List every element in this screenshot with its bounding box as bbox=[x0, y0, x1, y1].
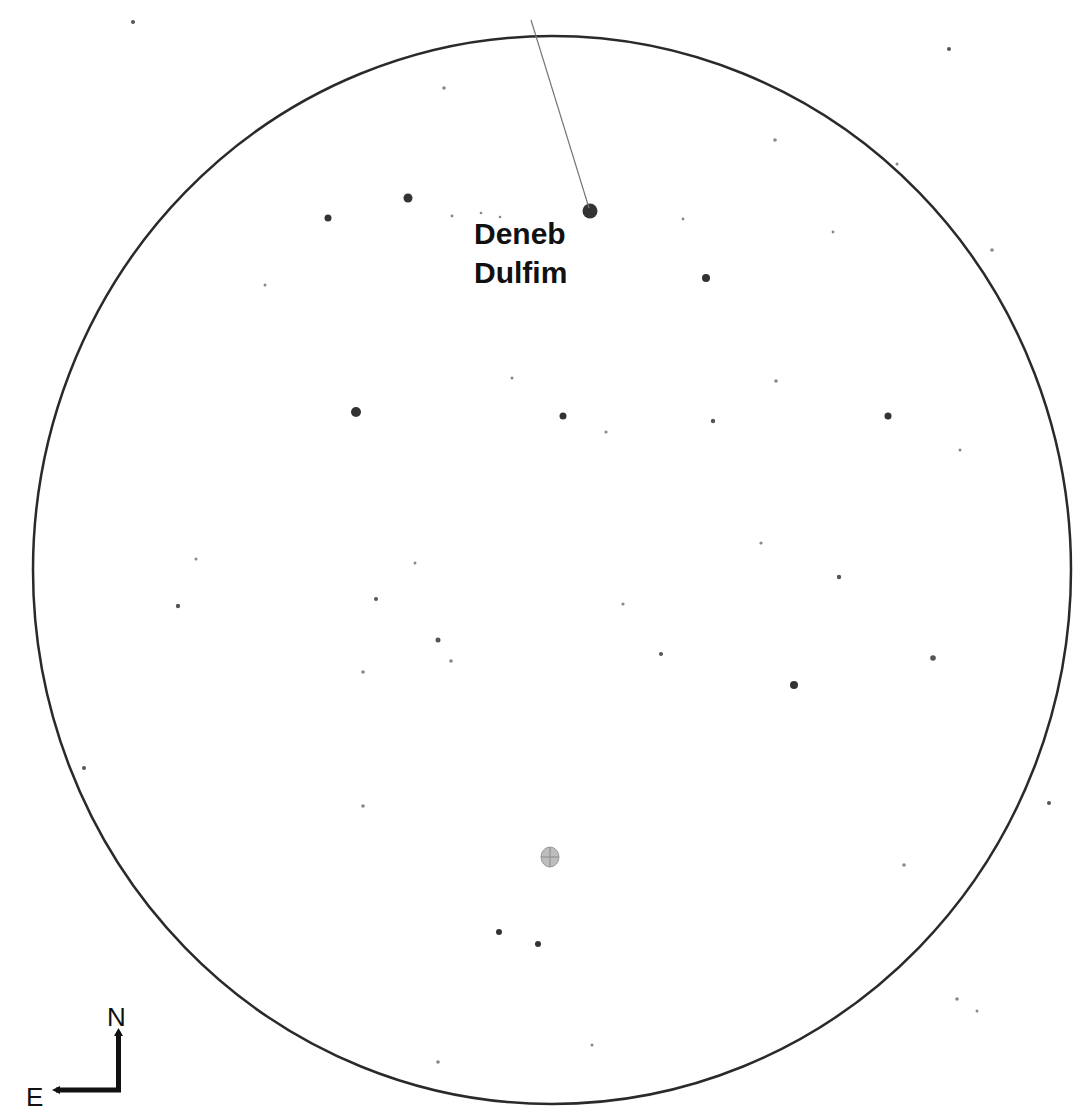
star-icon bbox=[195, 558, 198, 561]
star-icon bbox=[404, 194, 413, 203]
star-icon bbox=[702, 274, 710, 282]
compass-east-label: E bbox=[26, 1082, 43, 1112]
star-icon bbox=[990, 248, 994, 252]
star-icon bbox=[711, 419, 715, 423]
star-icon bbox=[264, 284, 267, 287]
field-of-view-circle bbox=[33, 36, 1071, 1104]
star-icon bbox=[896, 163, 899, 166]
star-icon bbox=[131, 20, 135, 24]
star-icon bbox=[955, 997, 959, 1001]
finder-chart: Deneb Dulfim N E bbox=[0, 0, 1084, 1120]
star-icon bbox=[774, 379, 778, 383]
star-icon bbox=[82, 766, 86, 770]
star-icon bbox=[414, 562, 417, 565]
star-icon bbox=[947, 47, 951, 51]
star-icon bbox=[591, 1044, 594, 1047]
star-icon bbox=[436, 638, 441, 643]
star-icon bbox=[773, 138, 777, 142]
star-icon bbox=[451, 215, 454, 218]
star-icon bbox=[361, 804, 365, 808]
star-icon bbox=[583, 204, 598, 219]
star-icon bbox=[959, 449, 962, 452]
star-icon bbox=[621, 602, 624, 605]
star-icon bbox=[759, 541, 762, 544]
star-icon bbox=[832, 231, 835, 234]
star-icon bbox=[659, 652, 663, 656]
star-field bbox=[82, 20, 1051, 1064]
star-icon bbox=[442, 86, 446, 90]
target-name-line2: Dulfim bbox=[474, 256, 567, 289]
star-icon bbox=[560, 413, 567, 420]
star-icon bbox=[176, 604, 180, 608]
star-icon bbox=[361, 670, 365, 674]
star-icon bbox=[976, 1010, 979, 1013]
field-of-view-ring bbox=[33, 36, 1071, 1104]
star-icon bbox=[682, 218, 685, 221]
star-icon bbox=[436, 1060, 440, 1064]
star-icon bbox=[325, 215, 332, 222]
star-icon bbox=[604, 430, 607, 433]
pointer-line bbox=[531, 20, 589, 208]
star-icon bbox=[449, 659, 453, 663]
dso-marker-icon bbox=[541, 847, 559, 867]
star-icon bbox=[885, 413, 892, 420]
star-icon bbox=[902, 863, 906, 867]
compass-rose: N E bbox=[26, 1002, 126, 1112]
compass-north-label: N bbox=[107, 1002, 126, 1032]
target-name-line1: Deneb bbox=[474, 217, 566, 250]
compass-east-arrowhead-icon bbox=[52, 1086, 60, 1094]
star-icon bbox=[374, 597, 378, 601]
star-icon bbox=[351, 407, 361, 417]
star-icon bbox=[511, 377, 514, 380]
star-icon bbox=[930, 655, 936, 661]
star-icon bbox=[480, 212, 483, 215]
star-icon bbox=[1047, 801, 1051, 805]
star-icon bbox=[496, 929, 502, 935]
star-icon bbox=[790, 681, 798, 689]
star-icon bbox=[837, 575, 841, 579]
star-icon bbox=[535, 941, 541, 947]
